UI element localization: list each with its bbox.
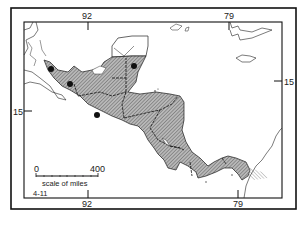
lon-label-79-top: 79 bbox=[224, 11, 234, 21]
lat-label-15-left: 15 bbox=[13, 107, 23, 117]
site-marker bbox=[67, 81, 73, 87]
figure-tag: 4-11 bbox=[33, 189, 47, 198]
map-figure: 92 79 92 79 15 15 0 400 scale of miles 4… bbox=[0, 0, 307, 226]
yucatan-peninsula bbox=[112, 36, 148, 57]
lon-label-79-bottom: 79 bbox=[233, 199, 243, 209]
lon-label-92-top: 92 bbox=[82, 11, 92, 21]
lon-label-92-bottom: 92 bbox=[82, 199, 92, 209]
site-marker bbox=[94, 112, 100, 118]
scale-start: 0 bbox=[34, 164, 39, 174]
site-marker bbox=[48, 66, 54, 72]
lat-label-15-right: 15 bbox=[284, 77, 294, 87]
site-marker bbox=[131, 63, 137, 69]
scale-end: 400 bbox=[90, 164, 105, 174]
scale-caption: scale of miles bbox=[42, 179, 88, 188]
